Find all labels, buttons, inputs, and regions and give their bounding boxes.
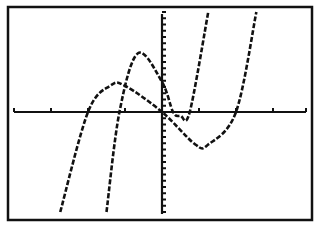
graph-frame (8, 7, 312, 220)
axes (14, 14, 306, 214)
calculator-graph (0, 0, 317, 229)
